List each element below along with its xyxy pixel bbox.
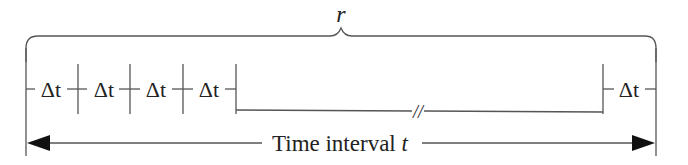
interval-label-3: Δt <box>146 77 166 102</box>
arrowhead-left-icon <box>27 135 50 151</box>
interval-label-1: Δt <box>41 77 61 102</box>
time-interval-var: t <box>401 131 408 156</box>
time-interval-text: Time interval <box>272 131 401 156</box>
time-interval-label: Time interval t <box>272 131 408 156</box>
gap-marker: // <box>412 102 425 122</box>
brace-label-r: r <box>336 1 346 27</box>
arrowhead-right-icon <box>632 135 655 151</box>
time-interval-diagram: r Δt Δt Δt Δt Δt // T <box>0 0 688 165</box>
interval-label-last: Δt <box>619 77 639 102</box>
r-brace <box>26 28 656 62</box>
interval-label-4: Δt <box>199 77 219 102</box>
interval-label-2: Δt <box>94 77 114 102</box>
